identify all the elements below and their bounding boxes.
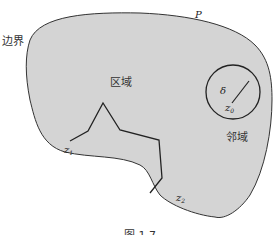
boundary-label: 边界 [2,35,24,48]
neighborhood-label: 邻域 [226,131,248,144]
delta-label: δ [220,85,226,96]
region-label: 区域 [110,76,132,89]
region-diagram: 边界 P 区域 邻域 δ z0 z1 z2 图 1.7 [0,0,277,235]
region-shape [26,13,272,218]
point-p-label: P [194,9,202,20]
figure-caption: 图 1.7 [124,229,156,235]
